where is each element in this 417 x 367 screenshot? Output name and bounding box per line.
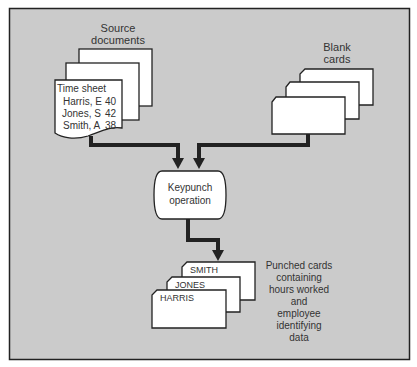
data-flow-diagram: Source documents Time sheet Harris, E 40… — [0, 0, 417, 367]
blank-card-front — [272, 97, 345, 134]
row-hours-1: 42 — [105, 108, 117, 119]
svg-text:identifying: identifying — [276, 320, 321, 331]
blank-label-1: Blank — [323, 41, 351, 53]
row-name-0: Harris, E — [63, 96, 102, 107]
source-label-2: documents — [91, 34, 145, 46]
card-label-smith: SMITH — [190, 265, 218, 275]
row-name-2: Smith, A — [63, 120, 101, 131]
svg-text:containing: containing — [276, 272, 322, 283]
svg-text:Punched cards: Punched cards — [266, 260, 333, 271]
process-label-2: operation — [169, 195, 211, 206]
process-label-1: Keypunch — [168, 182, 212, 193]
row-hours-0: 40 — [105, 96, 117, 107]
svg-text:hours worked: hours worked — [269, 284, 329, 295]
source-label-1: Source — [101, 22, 136, 34]
svg-text:and: and — [291, 296, 308, 307]
svg-text:employee: employee — [277, 308, 321, 319]
time-sheet-title: Time sheet — [57, 83, 106, 94]
row-name-1: Jones, S — [62, 108, 101, 119]
svg-text:data: data — [289, 332, 309, 343]
row-hours-2: 38 — [105, 120, 117, 131]
blank-label-2: cards — [324, 53, 351, 65]
card-label-jones: JONES — [175, 280, 205, 290]
card-label-harris: HARRIS — [160, 293, 194, 303]
